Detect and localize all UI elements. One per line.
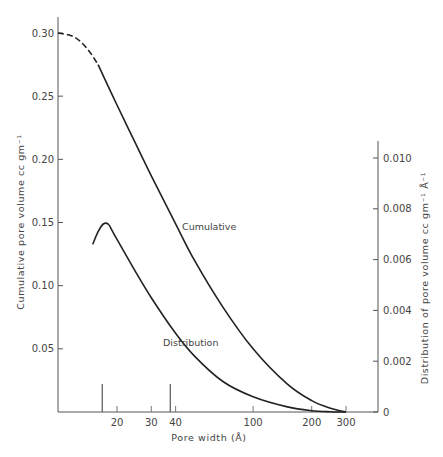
right-y-axis-title: Distribution of pore volume cc gm⁻¹ Å⁻¹ [419,172,430,385]
x-tick-label: 20 [111,417,124,428]
x-tick-label: 100 [244,417,263,428]
x-tick-label: 300 [336,417,355,428]
cumulative-label: Cumulative [182,221,236,232]
left-y-axis-title: Cumulative pore volume cc gm⁻¹ [15,134,26,309]
x-tick-label: 30 [145,417,158,428]
left-tick-label: 0.30 [32,28,54,39]
cumulative-curve [98,65,346,412]
right-tick-label: 0 [383,407,389,418]
right-tick-label: 0.002 [383,356,412,367]
left-tick-label: 0.05 [32,343,54,354]
left-tick-label: 0.15 [32,217,54,228]
x-ticks: 203040100200300 [111,406,356,428]
right-tick-label: 0.008 [383,203,412,214]
distribution-label: Distribution [163,337,218,348]
x-tick-label: 40 [169,417,182,428]
left-tick-label: 0.10 [32,280,54,291]
x-tick-label: 200 [302,417,321,428]
x-axis-title: Pore width (Å) [171,432,246,443]
pore-volume-chart: 0.050.100.150.200.250.30 00.0020.0040.00… [0,0,443,457]
right-tick-label: 0.010 [383,153,412,164]
right-tick-label: 0.004 [383,305,412,316]
right-tick-label: 0.006 [383,254,412,265]
left-tick-label: 0.20 [32,154,54,165]
distribution-curve [93,223,346,412]
cumulative-curve-dashed [58,33,98,65]
marker-lines [102,384,170,412]
left-tick-label: 0.25 [32,91,54,102]
right-y-ticks: 00.0020.0040.0060.0080.010 [373,153,412,418]
